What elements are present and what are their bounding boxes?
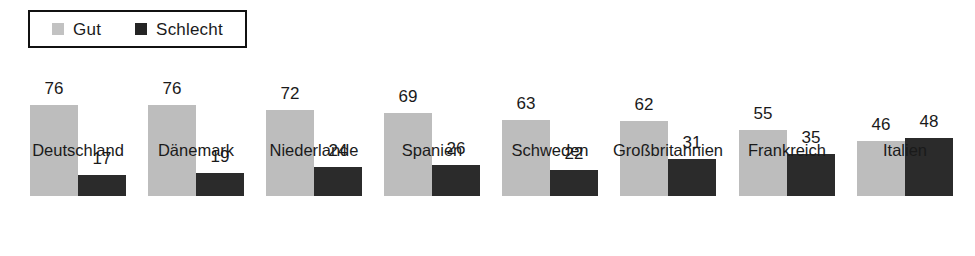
bar-value-gut-niederlande: 72 <box>266 85 314 102</box>
bar-pair: 46 48 <box>857 60 953 196</box>
bar-pair: 72 24 <box>266 60 362 196</box>
bar-schlecht-frankreich: 35 <box>787 154 835 196</box>
bar-schlecht-spanien: 26 <box>432 165 480 196</box>
bar-schlecht-daenemark: 19 <box>196 173 244 196</box>
bar-group-spanien: 69 26 Spanien <box>384 60 480 196</box>
bar-pair: 62 31 <box>620 60 716 196</box>
bar-pair: 63 22 <box>502 60 598 196</box>
bar-group-niederlande: 72 24 Niederlande <box>266 60 362 196</box>
bar-schlecht-schweden: 22 <box>550 170 598 196</box>
bar-pair: 69 26 <box>384 60 480 196</box>
bar-value-gut-spanien: 69 <box>384 88 432 105</box>
plot-area: 76 17 Deutschland 76 19 Dänemark <box>0 0 975 256</box>
bar-group-frankreich: 55 35 Frankreich <box>739 60 835 196</box>
bar-pair: 76 17 <box>30 60 126 196</box>
bar-schlecht-niederlande: 24 <box>314 167 362 196</box>
bar-value-gut-frankreich: 55 <box>739 105 787 122</box>
bar-value-gut-italien: 46 <box>857 116 905 133</box>
bar-schlecht-grossbritannien: 31 <box>668 159 716 196</box>
bar-value-gut-deutschland: 76 <box>30 80 78 97</box>
bar-group-grossbritannien: 62 31 Großbritannien <box>620 60 716 196</box>
bar-pair: 55 35 <box>739 60 835 196</box>
bar-group-daenemark: 76 19 Dänemark <box>148 60 244 196</box>
bar-chart: Gut Schlecht 76 17 Deutschland 76 <box>0 0 975 256</box>
bar-value-gut-daenemark: 76 <box>148 80 196 97</box>
bar-group-schweden: 63 22 Schweden <box>502 60 598 196</box>
bar-value-gut-grossbritannien: 62 <box>620 96 668 113</box>
bar-group-italien: 46 48 Italien <box>857 60 953 196</box>
bar-value-schlecht-italien: 48 <box>905 113 953 130</box>
bar-schlecht-deutschland: 17 <box>78 175 126 196</box>
bar-group-deutschland: 76 17 Deutschland <box>30 60 126 196</box>
bar-pair: 76 19 <box>148 60 244 196</box>
bar-value-gut-schweden: 63 <box>502 95 550 112</box>
category-label-italien: Italien <box>835 140 975 160</box>
